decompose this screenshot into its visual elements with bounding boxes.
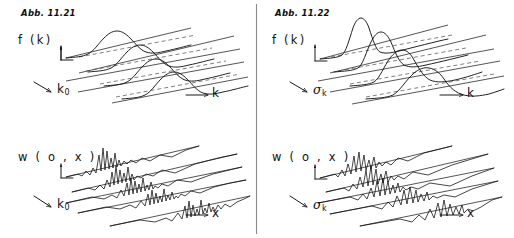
depth-axis-arrow (34, 82, 51, 92)
baseline (66, 49, 240, 81)
y-axis-label-wox-left: w ( o , x ) (18, 150, 96, 164)
x-axis-label-k-topleft: k (212, 86, 219, 100)
dashed-baseline (86, 48, 212, 71)
depth-axis-label-text: σ (313, 82, 322, 97)
depth-axis-label-sub: 0 (64, 88, 69, 97)
x-axis-label-k-topright: k (467, 86, 474, 100)
depth-axis-label-k0-bottomleft: k0 (57, 197, 70, 212)
depth-axis-label-sub: k (322, 204, 327, 213)
depth-axis-label-sub: 0 (64, 203, 69, 212)
baseline (112, 77, 248, 103)
baseline (330, 61, 500, 92)
x-axis-label-x-bottomleft: x (212, 206, 220, 220)
depth-axis-label-sigmak-topright: σk (313, 82, 327, 98)
y-axis-label-fk-left: f (k) (18, 33, 52, 47)
baseline (352, 76, 504, 104)
baseline (66, 28, 191, 58)
dashed-baseline (100, 61, 226, 84)
depth-axis-arrow (290, 82, 307, 92)
depth-axis-arrow (34, 196, 51, 207)
baseline (330, 35, 486, 73)
gaussian-curve (88, 45, 214, 72)
gaussian-curve (104, 59, 230, 86)
depth-axis-label-k0-topleft: k0 (57, 82, 70, 97)
figure-canvas (0, 0, 514, 238)
caption-abb-11-22: Abb. 11.22 (275, 8, 330, 18)
depth-axis-label-sub: k (322, 89, 327, 98)
gaussian-curve (320, 18, 448, 59)
y-axis-label-wox-right: w ( o , x ) (272, 150, 350, 164)
depth-axis-label-text: σ (313, 197, 322, 212)
gaussian-curve (66, 31, 191, 58)
depth-axis-arrow (290, 196, 307, 207)
caption-abb-11-21: Abb. 11.21 (21, 8, 76, 18)
x-axis-label-x-bottomright: x (467, 206, 475, 220)
dashed-baseline (338, 48, 466, 71)
baseline (320, 25, 448, 59)
baseline (66, 167, 242, 203)
dashed-baseline (331, 35, 452, 57)
y-axis-label-fk-right: f (k) (272, 33, 306, 47)
depth-axis-label-sigmak-bottomright: σk (313, 197, 327, 213)
figure-root: Abb. 11.21 f (k) k0 k w ( o , x ) k0 x A… (0, 0, 514, 238)
gaussian-curve (366, 68, 504, 99)
